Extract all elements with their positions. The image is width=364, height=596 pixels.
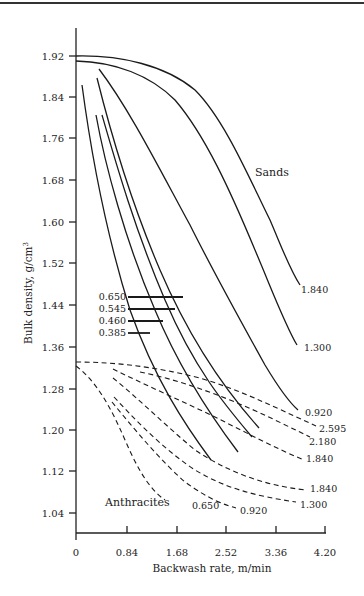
sand-end-labels: 1.840 1.300 0.920: [301, 284, 332, 418]
y-tick-label: 1.52: [42, 258, 64, 269]
sand-marker-labels: 0.650 0.545 0.460 0.385: [99, 291, 126, 338]
curve-end-label: 1.300: [300, 499, 327, 510]
x-tick-labels: 0 0.84 1.68 2.52 3.36 4.20: [73, 547, 336, 558]
x-tick-label: 0: [73, 547, 79, 558]
y-tick-label: 1.44: [42, 300, 64, 311]
y-tick-label: 1.36: [42, 342, 64, 353]
y-axis-title-superscript: 3: [22, 242, 30, 246]
sand-curves: [76, 56, 300, 460]
anthracite-end-labels: 2.595 2.180 1.840 1.840 1.300 0.650 0.92…: [192, 423, 346, 516]
curve-end-label: 0.650: [192, 500, 219, 511]
y-tick-label: 1.04: [42, 508, 64, 519]
y-tick-label: 1.20: [42, 425, 64, 436]
y-tick-label: 1.60: [42, 217, 64, 228]
y-tick-label: 1.68: [42, 175, 64, 186]
anthracites-label: Anthracites: [104, 496, 170, 509]
curve-end-label: 1.840: [310, 483, 337, 494]
curve-end-label: 2.180: [309, 436, 336, 447]
curve-anthracite-0650: [76, 366, 165, 500]
curve-sand-0650: [97, 78, 259, 428]
sands-label: Sands: [255, 166, 289, 179]
curve-anthracite-1840b: [113, 378, 306, 490]
y-axis-title: Bulk density, g/cm3: [22, 242, 34, 344]
chart: 1.92 1.84 1.76 1.68 1.60 1.52 1.44 1.36 …: [0, 0, 364, 596]
y-tick-label: 1.28: [42, 384, 64, 395]
curve-end-label: 1.300: [304, 342, 331, 353]
anthracite-curves: [76, 362, 316, 508]
y-tick-label: 1.92: [42, 51, 64, 62]
curve-end-label: 1.840: [306, 453, 333, 464]
y-tick-labels: 1.92 1.84 1.76 1.68 1.60 1.52 1.44 1.36 …: [42, 51, 64, 519]
marker-label: 0.385: [99, 327, 126, 338]
curve-sand-0545: [102, 115, 252, 437]
curve-end-label: 2.595: [319, 423, 346, 434]
marker-label: 0.460: [99, 315, 126, 326]
y-tick-label: 1.76: [42, 133, 64, 144]
curve-end-label: 1.840: [301, 284, 328, 295]
curve-anthracite-2595: [76, 362, 316, 426]
x-tick-label: 2.52: [215, 547, 237, 558]
y-tick-label: 1.12: [42, 466, 64, 477]
marker-label: 0.650: [99, 291, 126, 302]
marker-label: 0.545: [99, 303, 126, 314]
x-tick-label: 0.84: [116, 547, 138, 558]
axes: [69, 28, 326, 540]
y-tick-label: 1.84: [42, 92, 64, 103]
x-tick-label: 3.36: [265, 547, 287, 558]
curve-end-label: 0.920: [305, 407, 332, 418]
x-tick-label: 4.20: [314, 547, 336, 558]
x-axis-title: Backwash rate, m/min: [153, 562, 272, 574]
x-tick-label: 1.68: [166, 547, 188, 558]
svg-text:Bulk density, g/cm3: Bulk density, g/cm3: [22, 242, 34, 344]
curve-end-label: 0.920: [240, 505, 267, 516]
y-axis-title-text: Bulk density, g/cm: [22, 246, 34, 344]
